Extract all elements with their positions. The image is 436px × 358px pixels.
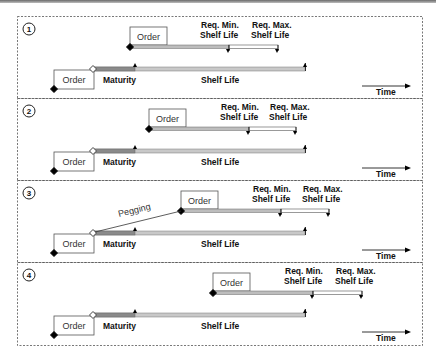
pegging-label: Pegging bbox=[117, 201, 151, 219]
req-min-label-line2: Shelf Life bbox=[220, 112, 259, 122]
maturity-bar bbox=[93, 149, 135, 153]
req-min-label-line1: Req. Min. bbox=[253, 184, 291, 194]
step-number: 2 bbox=[27, 107, 32, 116]
shelf-life-label: Shelf Life bbox=[201, 239, 240, 249]
req-min-label-line1: Req. Min. bbox=[221, 102, 259, 112]
time-label: Time bbox=[376, 333, 396, 343]
maturity-label: Maturity bbox=[103, 321, 136, 331]
shelf-life-diagram: 1OrderMaturityShelf LifeTimeOrderReq. Mi… bbox=[0, 0, 436, 358]
req-max-label-line2: Shelf Life bbox=[269, 112, 308, 122]
order-label: Order bbox=[62, 321, 85, 331]
maturity-end-marker-icon bbox=[133, 63, 137, 67]
panel-2: 2OrderMaturityShelf LifeTimeOrderReq. Mi… bbox=[18, 99, 423, 181]
shelf-life-end-marker-icon bbox=[303, 309, 307, 313]
req-max-label-line2: Shelf Life bbox=[335, 276, 374, 286]
req-min-label-line2: Shelf Life bbox=[200, 30, 239, 40]
order-label: Order bbox=[62, 239, 85, 249]
req-min-shelf-life-bar bbox=[213, 291, 313, 295]
step-number: 3 bbox=[27, 189, 32, 198]
req-min-label-line1: Req. Min. bbox=[201, 20, 239, 30]
time-arrow-icon bbox=[405, 330, 411, 335]
req-min-shelf-life-bar bbox=[149, 127, 249, 131]
order-label: Order bbox=[156, 114, 179, 124]
panel-4: 4OrderMaturityShelf LifeTimeOrderReq. Mi… bbox=[18, 263, 423, 346]
req-max-label-line1: Req. Max. bbox=[270, 102, 310, 112]
maturity-end-marker-icon bbox=[133, 145, 137, 149]
order-label: Order bbox=[62, 157, 85, 167]
maturity-label: Maturity bbox=[103, 157, 136, 167]
req-max-label-line2: Shelf Life bbox=[302, 194, 341, 204]
shelf-life-label: Shelf Life bbox=[201, 321, 240, 331]
time-arrow-icon bbox=[405, 248, 411, 253]
req-min-label-line2: Shelf Life bbox=[252, 194, 291, 204]
shelf-life-label: Shelf Life bbox=[201, 157, 240, 167]
panel-3: 3OrderMaturityShelf LifeTimeOrderReq. Mi… bbox=[18, 181, 423, 263]
req-max-shelf-life-bar bbox=[229, 45, 278, 49]
time-arrow-icon bbox=[405, 166, 411, 171]
req-max-shelf-life-bar bbox=[281, 209, 329, 213]
req-max-label-line1: Req. Max. bbox=[252, 20, 292, 30]
req-max-label-line1: Req. Max. bbox=[336, 266, 376, 276]
req-min-shelf-life-bar bbox=[130, 45, 229, 49]
maturity-bar bbox=[93, 313, 135, 317]
req-max-label-line2: Shelf Life bbox=[251, 30, 290, 40]
req-min-label-line2: Shelf Life bbox=[284, 276, 323, 286]
req-min-shelf-life-bar bbox=[181, 209, 281, 213]
maturity-bar bbox=[93, 231, 135, 235]
req-max-label-line1: Req. Max. bbox=[303, 184, 343, 194]
shelf-life-end-marker-icon bbox=[303, 63, 307, 67]
time-label: Time bbox=[376, 251, 396, 261]
order-label: Order bbox=[220, 278, 243, 288]
shelf-life-end-marker-icon bbox=[303, 145, 307, 149]
req-max-shelf-life-bar bbox=[249, 127, 296, 131]
req-max-shelf-life-bar bbox=[313, 291, 362, 295]
order-label: Order bbox=[62, 75, 85, 85]
shelf-life-label: Shelf Life bbox=[201, 75, 240, 85]
step-number: 1 bbox=[27, 25, 32, 34]
time-label: Time bbox=[376, 87, 396, 97]
time-label: Time bbox=[376, 169, 396, 179]
time-arrow-icon bbox=[405, 84, 411, 89]
req-min-label-line1: Req. Min. bbox=[285, 266, 323, 276]
order-label: Order bbox=[188, 196, 211, 206]
maturity-label: Maturity bbox=[103, 75, 136, 85]
maturity-label: Maturity bbox=[103, 239, 136, 249]
order-label: Order bbox=[137, 32, 160, 42]
step-number: 4 bbox=[27, 271, 32, 280]
maturity-end-marker-icon bbox=[133, 309, 137, 313]
shelf-life-end-marker-icon bbox=[303, 227, 307, 231]
maturity-bar bbox=[93, 67, 135, 71]
panel-1: 1OrderMaturityShelf LifeTimeOrderReq. Mi… bbox=[18, 17, 423, 99]
maturity-end-marker-icon bbox=[133, 227, 137, 231]
